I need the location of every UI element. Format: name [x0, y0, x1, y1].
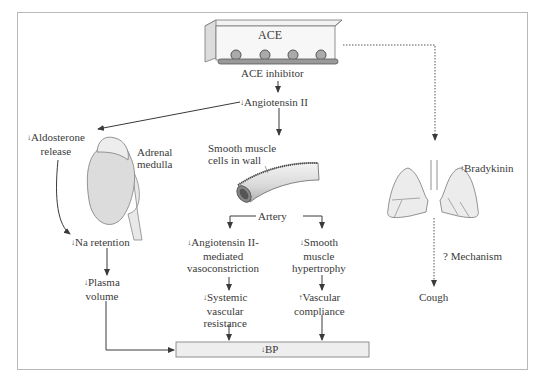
ang-vaso-line3: vasoconstriction: [187, 262, 259, 274]
artery-label: Artery: [258, 210, 287, 222]
down-arrow-icon: ↓: [261, 345, 265, 354]
arrow-angiotensin-to-aldosterone: [98, 102, 240, 129]
down-arrow-icon: ↓: [300, 238, 304, 247]
adrenal-medulla-label: Adrenal medulla: [137, 146, 172, 170]
smooth-muscle-hypertrophy-label: ↓Smooth muscle hypertrophy: [292, 236, 346, 274]
svr-line1: Systemic: [207, 291, 247, 303]
artery-branch-right: [303, 216, 322, 228]
hyper-line1: Smooth: [304, 236, 338, 248]
aldosterone-label: ↓Aldosterone release: [27, 131, 85, 157]
na-retention-text: Na retention: [75, 236, 130, 248]
artery-illustration: [234, 163, 319, 205]
svr-line2: vascular: [207, 305, 244, 317]
arrow-plasma-to-bp: [106, 301, 174, 350]
hyper-line2: muscle: [303, 250, 334, 262]
smooth-muscle-line2: cells in wall: [208, 154, 261, 166]
ang-vaso-line2: mediated: [203, 250, 243, 262]
plasma-volume-label: ↓Plasma volume: [84, 276, 120, 302]
compliance-line1: Vascular: [302, 291, 340, 303]
up-arrow-icon: ↑: [460, 164, 464, 173]
adrenal-line2: medulla: [137, 158, 172, 170]
down-arrow-icon: ↓: [203, 293, 207, 302]
hyper-line3: hypertrophy: [292, 262, 346, 274]
angiotensin-ii-text: Angiotensin II: [244, 96, 308, 108]
compliance-line2: compliance: [294, 305, 345, 317]
svr-line3: resistance: [203, 317, 246, 329]
systemic-vascular-resistance-label: ↓Systemic vascular resistance: [203, 291, 247, 329]
membrane-bar: [218, 59, 338, 64]
aldosterone-line1: Aldosterone: [31, 131, 85, 143]
na-retention-label: ↓Na retention: [71, 236, 130, 250]
vascular-compliance-label: ↑Vascular compliance: [294, 291, 345, 317]
kidney-illustration: [87, 137, 142, 240]
ace-inhibitor-label: ACE inhibitor: [241, 67, 304, 79]
ang-vaso-line1: Angiotensin II-: [191, 236, 259, 248]
down-arrow-icon: ↓: [84, 278, 88, 287]
ace-label: ACE: [258, 29, 282, 41]
bradykinin-label: ↑Bradykinin: [460, 162, 514, 176]
dotted-ace-to-lungs: [343, 45, 435, 140]
diagram-canvas: [0, 0, 541, 384]
aldosterone-line2: release: [41, 145, 72, 157]
angiotensin-vasoconstriction-label: ↓Angiotensin II- mediated vasoconstricti…: [187, 236, 259, 274]
angiotensin-ii-label: ↓Angiotensin II: [240, 96, 308, 110]
smooth-muscle-label: Smooth muscle cells in wall: [208, 142, 276, 166]
smooth-muscle-line1: Smooth muscle: [208, 142, 276, 154]
plasma-line2: volume: [85, 290, 118, 302]
down-arrow-icon: ↓: [71, 238, 75, 247]
down-arrow-icon: ↓: [27, 133, 31, 142]
adrenal-line1: Adrenal: [137, 146, 172, 158]
bradykinin-text: Bradykinin: [464, 162, 514, 174]
mechanism-label: ? Mechanism: [443, 250, 502, 262]
down-arrow-icon: ↓: [240, 98, 244, 107]
plasma-line1: Plasma: [88, 276, 120, 288]
down-arrow-icon: ↓: [187, 238, 191, 247]
bp-label: ↓BP: [261, 343, 278, 357]
artery-branch-left: [230, 216, 256, 228]
up-arrow-icon: ↑: [298, 293, 302, 302]
arrow-aldosterone-to-na: [57, 160, 71, 234]
cough-label: Cough: [419, 291, 448, 303]
bp-text: BP: [265, 343, 278, 355]
